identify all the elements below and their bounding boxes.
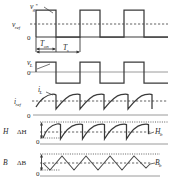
h-signal-label: H	[2, 127, 9, 136]
il-signal-label: iL	[38, 85, 43, 95]
delta-b-arrow-up-head	[40, 154, 43, 158]
vl-label-leader	[37, 64, 50, 69]
vg-waveform	[36, 10, 168, 37]
vl-signal-label: vL	[27, 58, 33, 68]
ton-arrow-right-head	[53, 47, 57, 50]
panel-il: iL iref 0	[14, 85, 168, 120]
waveform-figure: vg* vref 0 Ton Ts vL 0 iL i	[0, 0, 171, 186]
h-bias-label: Hb	[154, 127, 163, 137]
b-signal-label: B	[3, 158, 8, 167]
panel-vl: vL 0	[27, 58, 168, 83]
ts-arrow-right-head	[77, 50, 81, 53]
panel-b: B ΔB 0 Bb	[3, 154, 162, 178]
ton-label: Ton	[40, 39, 49, 49]
h-zero-label: 0	[36, 138, 40, 146]
panel-h: H ΔH 0 Hb	[2, 122, 168, 146]
vg-reference-label: vref	[12, 20, 21, 30]
h-waveform	[43, 124, 149, 139]
delta-h-label: ΔH	[17, 128, 27, 136]
b-zero-label: 0	[36, 170, 40, 178]
ton-arrow-left-head	[36, 47, 40, 50]
vl-zero-label: 0	[27, 69, 31, 77]
il-reference-label: iref	[14, 97, 22, 107]
delta-b-label: ΔB	[17, 159, 27, 167]
il-waveform	[36, 94, 152, 109]
waveform-svg: vg* vref 0 Ton Ts vL 0 iL i	[0, 0, 171, 186]
vg-zero-label: 0	[27, 34, 31, 42]
panel-vg: vg* vref 0 Ton Ts	[12, 2, 168, 54]
delta-h-arrow-down-head	[40, 136, 43, 140]
ts-label: Ts	[63, 43, 69, 53]
delta-h-arrow-up-head	[40, 122, 43, 126]
il-zero-label: 0	[27, 112, 31, 120]
b-bias-label: Bb	[155, 158, 162, 168]
delta-b-arrow-down-head	[40, 168, 43, 172]
